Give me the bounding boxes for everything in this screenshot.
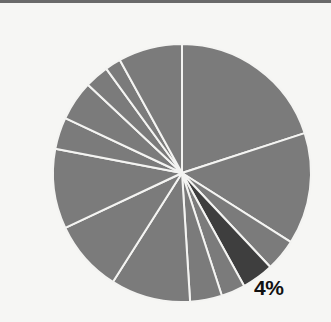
- pie-chart: [0, 0, 331, 322]
- highlight-slice-label: 4%: [254, 276, 283, 300]
